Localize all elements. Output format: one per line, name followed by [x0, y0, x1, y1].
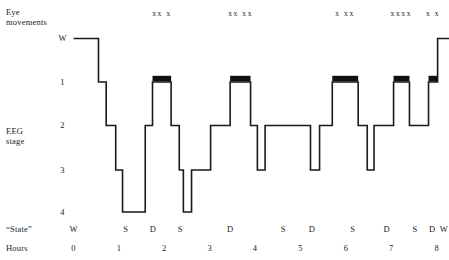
rem-period-bar	[332, 76, 358, 82]
rem-period-bar	[429, 76, 438, 82]
hypnogram-chart: Eye movements EEG stage “State” Hours W1…	[0, 0, 449, 260]
rem-period-bar	[153, 76, 172, 82]
rem-period-bar	[230, 76, 250, 82]
rem-period-bar	[394, 76, 410, 82]
rem-bars-group	[153, 76, 438, 82]
eeg-stage-trace	[74, 39, 449, 213]
hypnogram-trace-group	[74, 39, 449, 213]
hypnogram-svg	[0, 0, 449, 260]
